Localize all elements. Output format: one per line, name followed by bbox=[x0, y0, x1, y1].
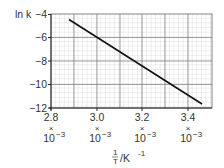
x-tick-3.2: 3.2 × 10 −3 bbox=[134, 111, 157, 144]
svg-text:−3: −3 bbox=[147, 130, 157, 139]
y-tick-label: −4 bbox=[35, 8, 47, 20]
svg-text:10: 10 bbox=[134, 132, 146, 144]
svg-text:−3: −3 bbox=[102, 130, 112, 139]
svg-text:-1: -1 bbox=[138, 149, 146, 158]
svg-text:−3: −3 bbox=[193, 130, 203, 139]
svg-text:/K: /K bbox=[120, 152, 130, 164]
svg-text:10: 10 bbox=[43, 132, 55, 144]
x-tick-2.8: 2.8 × 10 −3 bbox=[43, 111, 66, 144]
svg-text:−3: −3 bbox=[56, 130, 66, 139]
svg-text:10: 10 bbox=[89, 132, 101, 144]
y-tick-label: −6 bbox=[35, 31, 47, 43]
svg-text:T: T bbox=[113, 157, 118, 166]
svg-text:10: 10 bbox=[180, 132, 192, 144]
arrhenius-chart: ln k −4 −6 −8 −10 −12 2.8 × 10 −3 3.0 × … bbox=[0, 0, 224, 168]
svg-text:3.0: 3.0 bbox=[90, 111, 105, 123]
y-axis-label: ln k bbox=[15, 8, 32, 20]
svg-text:3.2: 3.2 bbox=[135, 111, 150, 123]
x-tick-3.4: 3.4 × 10 −3 bbox=[180, 111, 203, 144]
x-tick-3.0: 3.0 × 10 −3 bbox=[89, 111, 112, 144]
svg-text:3.4: 3.4 bbox=[181, 111, 196, 123]
x-axis-label: 1 T /K -1 bbox=[112, 148, 146, 166]
svg-text:1: 1 bbox=[113, 148, 118, 157]
y-tick-label: −10 bbox=[29, 78, 47, 90]
svg-text:2.8: 2.8 bbox=[44, 111, 59, 123]
y-tick-label: −8 bbox=[35, 55, 47, 67]
